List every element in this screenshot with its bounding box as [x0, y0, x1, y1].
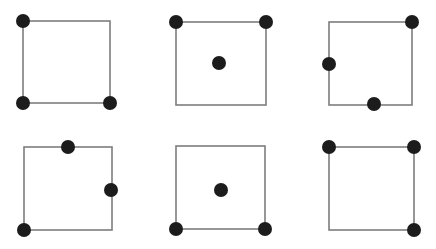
dot-4-top-edge-midpoint [61, 140, 75, 154]
dot-2-top-right-corner [259, 15, 273, 29]
figure-canvas [0, 0, 436, 249]
square-outline-3 [329, 22, 412, 105]
dot-6-top-left-corner [322, 140, 336, 154]
dot-5-bottom-right-corner [258, 222, 272, 236]
square-outline-4 [24, 147, 112, 230]
panel-group-6 [322, 140, 421, 237]
square-outline-6 [329, 147, 414, 230]
dot-4-right-edge-midpoint [104, 183, 118, 197]
dot-square-diagram [0, 0, 436, 249]
dot-1-top-left-corner [16, 14, 30, 28]
dot-2-center [212, 56, 226, 70]
panel-group-5 [169, 146, 272, 236]
panel-group-2 [169, 15, 273, 105]
dot-2-top-left-corner [169, 15, 183, 29]
square-outline-1 [23, 21, 110, 103]
dot-4-bottom-left-corner [17, 223, 31, 237]
dot-3-left-edge-midpoint [322, 57, 336, 71]
panel-group-3 [322, 15, 419, 111]
dot-5-bottom-left-corner [169, 222, 183, 236]
dot-3-top-right-corner [405, 15, 419, 29]
dot-1-bottom-right-corner [103, 96, 117, 110]
dot-1-bottom-left-corner [16, 96, 30, 110]
panel-group-1 [16, 14, 117, 110]
dot-6-top-right-corner [407, 140, 421, 154]
dot-3-bottom-edge-midpoint [367, 97, 381, 111]
dot-6-bottom-right-corner [407, 223, 421, 237]
dot-5-center [214, 183, 228, 197]
panel-group-4 [17, 140, 118, 237]
